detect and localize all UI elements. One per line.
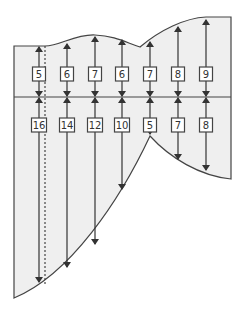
top-label: 6 — [64, 69, 70, 80]
top-label: 7 — [92, 69, 98, 80]
bottom-label: 10 — [116, 120, 129, 131]
bottom-label: 7 — [175, 120, 181, 131]
bottom-label: 5 — [147, 120, 153, 131]
bottom-label: 16 — [33, 120, 46, 131]
top-label: 5 — [36, 69, 42, 80]
bottom-label: 12 — [89, 120, 102, 131]
bottom-label: 14 — [61, 120, 74, 131]
diagram-canvas: 516614712610758798 — [0, 0, 252, 315]
top-label: 8 — [175, 69, 181, 80]
top-label: 7 — [147, 69, 153, 80]
bottom-label: 8 — [203, 120, 209, 131]
top-label: 6 — [119, 69, 125, 80]
top-label: 9 — [203, 69, 209, 80]
